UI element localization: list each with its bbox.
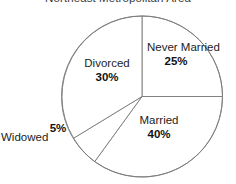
slice-category-divorced: Divorced <box>74 57 140 70</box>
slice-label-divorced: Divorced 30% <box>74 57 140 84</box>
pie-chart-figure: Northeast Metropolitan Area Never Marrie… <box>0 0 236 184</box>
slice-category-married: Married <box>126 114 192 127</box>
slice-category-never-married: Never Married <box>147 41 205 54</box>
slice-percent-divorced: 30% <box>74 71 140 84</box>
pie-chart-graphic <box>0 0 236 184</box>
slice-category-widowed: Widowed <box>1 131 61 144</box>
slice-percent-never-married: 25% <box>147 55 205 68</box>
slice-label-married: Married 40% <box>126 114 192 141</box>
slice-percent-married: 40% <box>126 128 192 141</box>
slice-label-never-married: Never Married 25% <box>147 41 205 68</box>
